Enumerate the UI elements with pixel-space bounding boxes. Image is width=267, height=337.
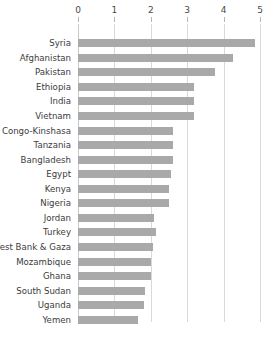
bar-row: West Bank & Gaza2.05	[0, 240, 267, 255]
category-label: Pakistan	[35, 67, 71, 77]
bar: 2	[78, 258, 151, 266]
bar-row: India3.2	[0, 94, 267, 109]
bar: 4.85	[78, 39, 255, 47]
category-label: Vietnam	[35, 111, 71, 121]
bar-row: Bangladesh2.6	[0, 152, 267, 167]
category-label: Afghanistan	[20, 53, 71, 63]
category-label: Turkey	[43, 227, 71, 237]
category-label: Egypt	[46, 169, 71, 179]
category-label: South Sudan	[16, 286, 71, 296]
bar: 2	[78, 272, 151, 280]
category-label: Yemen	[43, 315, 72, 325]
bar: 2.6	[78, 156, 173, 164]
bar: 1.65	[78, 316, 138, 324]
bar-row: Pakistan3.75	[0, 65, 267, 80]
bar: 2.6	[78, 141, 173, 149]
bar-row: Syria4.85	[0, 36, 267, 51]
bar-row: Nigeria2.5	[0, 196, 267, 211]
bar: 2.5	[78, 185, 169, 193]
bar-rows: Syria4.85Afghanistan4.25Pakistan3.75Ethi…	[0, 0, 267, 337]
category-label: Uganda	[38, 300, 71, 310]
bar: 2.6	[78, 127, 173, 135]
bar-row: Uganda1.8	[0, 298, 267, 313]
bar: 3.2	[78, 97, 194, 105]
bar-row: Ghana2	[0, 269, 267, 284]
category-label: Syria	[49, 38, 71, 48]
bar: 4.25	[78, 54, 233, 62]
bar-row: Jordan2.1	[0, 211, 267, 226]
category-label: West Bank & Gaza	[0, 242, 71, 252]
category-label: Nigeria	[40, 198, 71, 208]
horizontal-bar-chart: 012345 Syria4.85Afghanistan4.25Pakistan3…	[0, 0, 267, 337]
bar: 1.8	[78, 301, 144, 309]
bar: 2.5	[78, 199, 169, 207]
bar: 3.2	[78, 83, 194, 91]
bar-row: Turkey2.15	[0, 225, 267, 240]
bar: 1.85	[78, 287, 145, 295]
bar-row: Egypt2.55	[0, 167, 267, 182]
bar: 2.15	[78, 228, 156, 236]
bar: 2.55	[78, 170, 171, 178]
category-label: India	[50, 96, 71, 106]
bar: 3.75	[78, 68, 215, 76]
bar: 3.2	[78, 112, 194, 120]
bar-row: Tanzania2.6	[0, 138, 267, 153]
category-label: Congo-Kinshasa	[2, 126, 71, 136]
category-label: Ethiopia	[36, 82, 71, 92]
category-label: Mozambique	[16, 257, 71, 267]
category-label: Jordan	[44, 213, 71, 223]
category-label: Ghana	[43, 271, 71, 281]
bar-row: Mozambique2	[0, 254, 267, 269]
bar-row: South Sudan1.85	[0, 283, 267, 298]
category-label: Tanzania	[34, 140, 71, 150]
bar-row: Vietnam3.2	[0, 109, 267, 124]
bar-row: Afghanistan4.25	[0, 51, 267, 66]
bar-row: Congo-Kinshasa2.6	[0, 123, 267, 138]
category-label: Kenya	[45, 184, 71, 194]
bar-row: Kenya2.5	[0, 182, 267, 197]
bar: 2.1	[78, 214, 154, 222]
bar-row: Ethiopia3.2	[0, 80, 267, 95]
category-label: Bangladesh	[21, 155, 71, 165]
bar: 2.05	[78, 243, 153, 251]
bar-row: Yemen1.65	[0, 312, 267, 327]
